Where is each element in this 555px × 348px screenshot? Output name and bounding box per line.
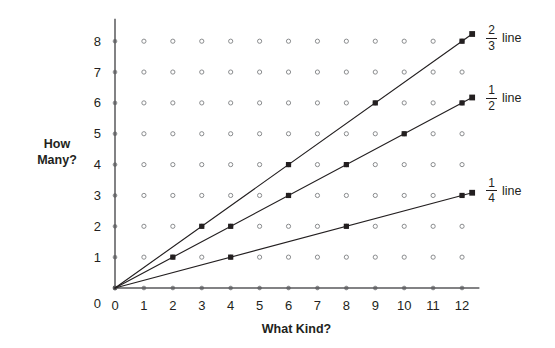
axes-lines [113, 19, 480, 291]
grid-dot [402, 224, 406, 228]
grid-dot [258, 255, 262, 259]
y-tick-label: 7 [69, 66, 101, 79]
y-axis-title-line: Many? [22, 153, 92, 169]
grid-dot [171, 224, 175, 228]
grid-dot [315, 255, 319, 259]
y-tick-label: 2 [69, 220, 101, 233]
grid-dot [229, 39, 233, 43]
grid-dot [431, 163, 435, 167]
fraction-denominator: 2 [486, 100, 497, 112]
grid-dot [373, 255, 377, 259]
grid-dot [200, 70, 204, 74]
series-label-1-4: 14line [486, 177, 521, 204]
series-label-word: line [502, 185, 521, 198]
y-tick-label: 3 [69, 189, 101, 202]
y-axis-title: HowMany? [22, 137, 92, 168]
grid-dot [460, 132, 464, 136]
series-marker [373, 100, 378, 105]
series-label-1-2: 12line [486, 84, 521, 111]
fraction-numerator: 2 [486, 24, 497, 36]
grid-dot [431, 70, 435, 74]
series-label-2-3: 23line [486, 24, 521, 51]
grid-dot [142, 39, 146, 43]
y-tick-label: 8 [69, 35, 101, 48]
grid-dot [315, 224, 319, 228]
grid-dot [373, 70, 377, 74]
grid-dot [344, 132, 348, 136]
grid-dot [431, 39, 435, 43]
grid-dot [286, 224, 290, 228]
grid-dot [142, 132, 146, 136]
grid-dot [286, 70, 290, 74]
series-lines-group [115, 34, 472, 288]
fraction-numerator: 1 [486, 177, 497, 189]
grid-dot [286, 132, 290, 136]
grid-dot [229, 132, 233, 136]
grid-dot [402, 193, 406, 197]
series-marker [228, 255, 233, 260]
grid-dot [258, 132, 262, 136]
grid-dot [200, 132, 204, 136]
series-marker [286, 193, 291, 198]
grid-dot [315, 101, 319, 105]
grid-dot [315, 193, 319, 197]
y-tick-label: 6 [69, 96, 101, 109]
grid-dot [431, 255, 435, 259]
fraction-numerator: 1 [486, 84, 497, 96]
fraction-1-over-2: 12 [486, 84, 497, 111]
grid-dot [171, 101, 175, 105]
grid-dot [286, 101, 290, 105]
series-line [115, 193, 472, 288]
series-label-word: line [502, 32, 521, 45]
series-endpoint-marker [469, 190, 475, 196]
series-marker [286, 162, 291, 167]
grid-dot [431, 101, 435, 105]
grid-dot [402, 163, 406, 167]
grid-dot [258, 224, 262, 228]
grid-dot [258, 39, 262, 43]
fraction-2-over-3: 23 [486, 24, 497, 51]
grid-dot [142, 193, 146, 197]
fraction-1-over-4: 14 [486, 177, 497, 204]
grid-dot [402, 255, 406, 259]
grid-dot [460, 70, 464, 74]
grid-dot [142, 101, 146, 105]
grid-dot [200, 163, 204, 167]
grid-dot [431, 224, 435, 228]
grid-dot [344, 39, 348, 43]
series-marker [344, 162, 349, 167]
grid-dot [315, 132, 319, 136]
grid-dot [460, 255, 464, 259]
grid-dot [142, 224, 146, 228]
grid-dot [171, 70, 175, 74]
grid-dot [344, 70, 348, 74]
y-tick-label: 0 [69, 297, 101, 310]
series-marker [459, 39, 464, 44]
grid-dot [402, 101, 406, 105]
series-marker [228, 224, 233, 229]
y-axis-title-line: How [22, 137, 92, 153]
series-marker [402, 131, 407, 136]
grid-dot [142, 255, 146, 259]
grid-dot [460, 163, 464, 167]
chart-container: 0123456789101112 012345678 HowMany? What… [0, 0, 555, 348]
fraction-denominator: 4 [486, 192, 497, 204]
grid-dot [344, 101, 348, 105]
grid-dot [229, 193, 233, 197]
y-tick-label: 1 [69, 251, 101, 264]
series-line [115, 34, 472, 288]
series-endpoint-marker [469, 95, 475, 101]
grid-dot [258, 70, 262, 74]
grid-dot [200, 39, 204, 43]
grid-dot [200, 255, 204, 259]
series-marker [459, 193, 464, 198]
line-chart-plot [0, 0, 555, 348]
grid-dot [142, 163, 146, 167]
grid-dot [460, 224, 464, 228]
fraction-denominator: 3 [486, 40, 497, 52]
series-endpoint-marker [469, 31, 475, 37]
grid-dot [431, 132, 435, 136]
grid-dot [344, 255, 348, 259]
grid-dot [315, 70, 319, 74]
grid-dot [431, 193, 435, 197]
